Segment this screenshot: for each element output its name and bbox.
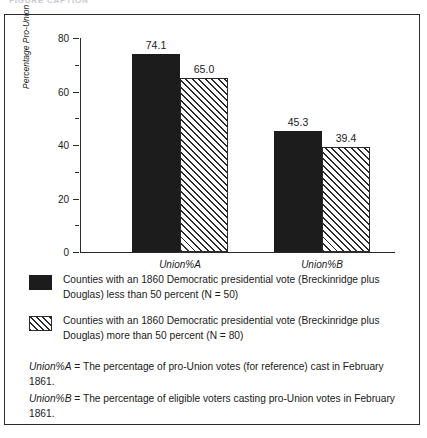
legend-item-hatch: Counties with an 1860 Democratic preside… (29, 314, 401, 343)
legend-item-solid: Counties with an 1860 Democratic preside… (29, 273, 401, 302)
y-axis-tick-labels: 80 60 40 20 0 (35, 15, 69, 265)
chart-legend: Counties with an 1860 Democratic preside… (29, 273, 401, 355)
y-tickmark-major (73, 199, 79, 200)
y-tick-label: 80 (35, 33, 69, 44)
y-tickmark-minor (75, 65, 79, 66)
x-axis-line (80, 252, 395, 253)
x-axis-category-union-b: Union%B (262, 259, 382, 270)
y-tickmark-minor (75, 118, 79, 119)
bar-series-container: 74.1 65.0 45.3 39.4 (80, 38, 395, 252)
bar-union-b-hatch[interactable] (322, 147, 370, 252)
y-tickmark-major (73, 252, 79, 253)
note-definition: = The percentage of pro-Union votes (for… (29, 361, 384, 387)
bar-value-label: 39.4 (316, 132, 376, 144)
y-tickmark-minor (75, 225, 79, 226)
note-union-b: Union%B = The percentage of eligible vot… (29, 392, 405, 421)
bar-value-label: 74.1 (126, 39, 186, 51)
y-tickmark-major (73, 92, 79, 93)
bar-union-b-solid[interactable] (274, 131, 322, 252)
y-tick-label: 60 (35, 86, 69, 97)
note-union-a: Union%A = The percentage of pro-Union vo… (29, 360, 405, 389)
legend-swatch-diagonal-hatch-icon (29, 316, 52, 331)
note-key: Union%A (29, 361, 71, 372)
note-key: Union%B (29, 393, 71, 404)
bar-value-label: 45.3 (268, 116, 328, 128)
legend-label: Counties with an 1860 Democratic preside… (63, 273, 401, 302)
bar-union-a-solid[interactable] (132, 54, 180, 252)
y-tick-label: 40 (35, 140, 69, 151)
note-definition: = The percentage of eligible voters cast… (29, 393, 395, 419)
legend-swatch-solid-black-icon (29, 275, 52, 290)
figure-notes: Union%A = The percentage of pro-Union vo… (29, 360, 405, 424)
y-tick-label: 0 (35, 247, 69, 258)
x-axis-category-union-a: Union%A (120, 259, 240, 270)
y-tickmark-major (73, 145, 79, 146)
y-tick-label: 20 (35, 193, 69, 204)
bar-chart: Percentage Pro-Union 80 60 40 20 0 (5, 15, 421, 265)
clipped-header-text: FIGURE CAPTION (9, 0, 209, 5)
figure-frame: Percentage Pro-Union 80 60 40 20 0 (4, 14, 420, 425)
legend-label: Counties with an 1860 Democratic preside… (63, 314, 401, 343)
bar-value-label: 65.0 (174, 63, 234, 75)
clipped-figure-header: FIGURE CAPTION (9, 0, 209, 8)
y-axis-title: Percentage Pro-Union (21, 5, 31, 89)
y-tickmark-major (73, 38, 79, 39)
y-tickmark-minor (75, 172, 79, 173)
bar-union-a-hatch[interactable] (180, 78, 228, 252)
